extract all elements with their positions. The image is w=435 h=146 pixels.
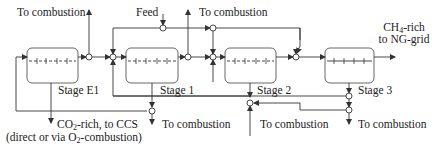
label-to-combustion-bottom-3: To combustion	[358, 118, 427, 130]
label-to-combustion-top-mid: To combustion	[199, 6, 268, 18]
stage3-permeate-node-1	[346, 93, 352, 99]
stage1-permeate-node	[149, 108, 155, 114]
stage-e1-box	[27, 48, 78, 83]
label-co2-route: (direct or via O2-combustion)	[6, 131, 142, 143]
label-stage-3: Stage 3	[358, 84, 392, 96]
mixer-node-stage1	[110, 54, 116, 60]
product-line2: to NG-grid	[379, 33, 430, 45]
co2-prefix: CO	[57, 118, 73, 130]
label-to-combustion-bottom-1: To combustion	[162, 118, 231, 130]
label-feed: Feed	[136, 6, 158, 18]
stage-2-box	[225, 48, 276, 83]
co2-suffix: -rich, to CCS	[77, 118, 138, 130]
co2-route-suffix: -combustion)	[81, 131, 142, 143]
label-product: CH4-rich to NG-grid	[376, 21, 432, 45]
mixer-node-stage2	[210, 54, 216, 60]
stage2-permeate-node	[247, 100, 253, 106]
stage-1-box	[126, 48, 178, 83]
label-stage-e1: Stage E1	[58, 84, 99, 96]
splitter-node-stage1	[185, 54, 191, 60]
stage-3-box	[325, 48, 374, 83]
label-to-combustion-top-left: To combustion	[17, 6, 86, 18]
splitter-node-e1	[86, 54, 92, 60]
label-stage-1: Stage 1	[160, 84, 194, 96]
feed-node	[160, 25, 166, 31]
label-co2-rich: CO2-rich, to CCS	[57, 118, 138, 130]
co2-route-prefix: (direct or via O	[6, 131, 77, 143]
product-prefix: CH	[383, 21, 399, 33]
label-to-combustion-bottom-2: To combustion	[260, 118, 329, 130]
product-suffix: -rich	[403, 21, 425, 33]
label-stage-2: Stage 2	[257, 84, 291, 96]
top-split-node	[210, 25, 216, 31]
mixer-node-stage3	[293, 54, 299, 60]
stage3-permeate-node-2	[346, 107, 352, 113]
